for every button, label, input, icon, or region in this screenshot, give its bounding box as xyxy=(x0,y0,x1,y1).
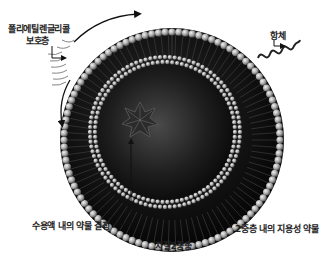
aqueous-core xyxy=(88,55,242,209)
label-lipophilic-drug: 2중층 내의 지용성 약물 xyxy=(235,222,319,235)
label-protective-layer: 보호층 xyxy=(26,34,49,47)
antibody-icon xyxy=(258,40,300,58)
label-lipid-bilayer: 지질2중층 xyxy=(155,239,192,252)
label-aqueous-drug: 수용액 내의 약물 결정 xyxy=(32,219,110,232)
label-antibody: 항체 xyxy=(270,29,285,42)
liposome-diagram: 폴리에틸렌글리콜 보호층 항체 수용액 내의 약물 결정 지질2중층 2중층 내… xyxy=(0,0,334,266)
